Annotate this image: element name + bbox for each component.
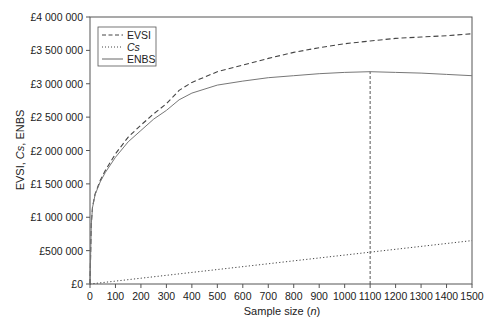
x-tick-label: 0 — [87, 290, 93, 302]
x-tick-label: 900 — [310, 290, 328, 302]
y-tick-label: £1 500 000 — [30, 178, 83, 190]
y-tick-label: £0 — [71, 278, 83, 290]
series-layer — [90, 34, 472, 284]
chart: £0£500 000£1 000 000£1 500 000£2 000 000… — [0, 0, 495, 329]
y-axis: £0£500 000£1 000 000£1 500 000£2 000 000… — [30, 11, 90, 290]
x-tick-label: 200 — [132, 290, 150, 302]
series-enbs-line — [90, 72, 472, 284]
series-evsi-line — [90, 34, 472, 284]
x-tick-label: 100 — [107, 290, 125, 302]
y-tick-label: £500 000 — [39, 245, 83, 257]
legend-cs-label: Cs — [127, 41, 141, 53]
x-tick-label: 800 — [285, 290, 303, 302]
x-axis: 0100200300400500600700800900100011001200… — [87, 284, 484, 302]
x-tick-label: 500 — [209, 290, 227, 302]
legend: EVSI Cs ENBS — [98, 27, 156, 66]
x-tick-label: 1400 — [435, 290, 459, 302]
y-tick-label: £3 000 000 — [30, 78, 83, 90]
y-tick-label: £1 000 000 — [30, 211, 83, 223]
y-tick-label: £2 000 000 — [30, 145, 83, 157]
series-cs-line — [90, 241, 472, 284]
y-tick-label: £3 500 000 — [30, 44, 83, 56]
y-axis-label: EVSI, Cs, ENBS — [14, 110, 26, 191]
legend-evsi-label: EVSI — [127, 29, 151, 41]
x-tick-label: 1100 — [359, 290, 382, 302]
y-tick-label: £4 000 000 — [30, 11, 83, 23]
x-tick-label: 1300 — [409, 290, 433, 302]
x-tick-label: 400 — [183, 290, 201, 302]
x-tick-label: 600 — [234, 290, 252, 302]
x-tick-label: 1500 — [460, 290, 484, 302]
x-tick-label: 300 — [158, 290, 176, 302]
x-tick-label: 1000 — [333, 290, 357, 302]
x-axis-label: Sample size (n) — [244, 305, 320, 317]
x-tick-label: 700 — [260, 290, 278, 302]
legend-enbs-label: ENBS — [127, 53, 156, 65]
y-tick-label: £2 500 000 — [30, 111, 83, 123]
x-tick-label: 1200 — [384, 290, 408, 302]
